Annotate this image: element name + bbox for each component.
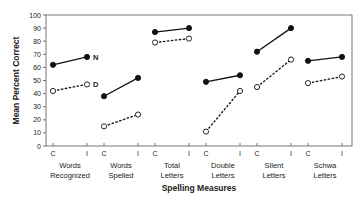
series-N-segment xyxy=(155,28,189,32)
y-axis-label: Mean Percent Correct xyxy=(11,36,21,124)
series-D-segment xyxy=(257,60,291,88)
series-D-point xyxy=(254,84,259,89)
series-N-segment xyxy=(53,57,87,65)
series-D-segment xyxy=(308,77,342,84)
y-tick-label: 0 xyxy=(37,143,41,150)
series-D-point xyxy=(305,81,310,86)
series-N-point xyxy=(50,62,55,67)
group-label: Letters xyxy=(161,171,184,180)
series-N-point xyxy=(254,49,259,54)
x-tick-label: C xyxy=(254,150,259,157)
series-D-point xyxy=(237,88,242,93)
x-tick-label: C xyxy=(152,150,157,157)
legend-label-D: D xyxy=(93,80,99,89)
line-chart: 0102030405060708090100CICICICICICI Mean … xyxy=(0,0,360,205)
series-D-point xyxy=(203,129,208,134)
y-tick-label: 70 xyxy=(33,51,41,58)
series-D-point xyxy=(84,82,89,87)
group-label: Total xyxy=(164,161,180,170)
legend-label-N: N xyxy=(93,53,98,62)
x-tick-label: I xyxy=(86,150,88,157)
group-label: Words xyxy=(59,161,81,170)
series-D-point xyxy=(339,74,344,79)
group-label: Letters xyxy=(263,171,286,180)
x-axis-label: Spelling Measures xyxy=(162,183,237,193)
series-D-point xyxy=(101,124,106,129)
x-tick-label: C xyxy=(101,150,106,157)
y-tick-label: 10 xyxy=(33,129,41,136)
series-N-segment xyxy=(308,57,342,61)
series-N-point xyxy=(203,79,208,84)
group-label: Letters xyxy=(212,171,235,180)
series-N-point xyxy=(288,26,293,31)
series-D-point xyxy=(186,36,191,41)
series-D-point xyxy=(135,112,140,117)
group-label: Double xyxy=(211,161,235,170)
series-N-point xyxy=(237,73,242,78)
series-N-point xyxy=(152,29,157,34)
series-D-segment xyxy=(104,115,138,127)
y-tick-label: 30 xyxy=(33,103,41,110)
y-tick-label: 40 xyxy=(33,90,41,97)
x-tick-label: I xyxy=(239,150,241,157)
series-N-segment xyxy=(257,28,291,52)
series-N-point xyxy=(305,58,310,63)
series-D-point xyxy=(288,57,293,62)
y-tick-label: 80 xyxy=(33,38,41,45)
y-tick-label: 50 xyxy=(33,77,41,84)
series-N-point xyxy=(135,75,140,80)
series-N-point xyxy=(186,26,191,31)
y-tick-label: 90 xyxy=(33,25,41,32)
series-N-point xyxy=(101,94,106,99)
plot-frame xyxy=(46,15,352,146)
y-tick-label: 60 xyxy=(33,64,41,71)
series-N-point xyxy=(339,54,344,59)
series-N-point xyxy=(84,54,89,59)
x-tick-label: C xyxy=(50,150,55,157)
axes: 0102030405060708090100CICICICICICI xyxy=(29,12,352,158)
group-label: Spelled xyxy=(108,171,133,180)
series-D-point xyxy=(50,88,55,93)
y-tick-label: 20 xyxy=(33,116,41,123)
group-label: Words xyxy=(110,161,132,170)
series-D-segment xyxy=(53,84,87,91)
group-label: Letters xyxy=(314,171,337,180)
series-D-segment xyxy=(155,39,189,43)
x-tick-label: I xyxy=(188,150,190,157)
series-D-segment xyxy=(206,91,240,132)
y-tick-label: 100 xyxy=(29,12,41,19)
series-N-segment xyxy=(104,78,138,96)
x-tick-label: I xyxy=(137,150,139,157)
x-tick-label: C xyxy=(203,150,208,157)
group-label: Silent xyxy=(265,161,285,170)
group-label: Recognized xyxy=(50,171,90,180)
x-tick-label: C xyxy=(305,150,310,157)
group-label: Schwa xyxy=(314,161,337,170)
x-tick-label: I xyxy=(290,150,292,157)
series-D-point xyxy=(152,40,157,45)
x-tick-label: I xyxy=(341,150,343,157)
series-N-segment xyxy=(206,75,240,82)
